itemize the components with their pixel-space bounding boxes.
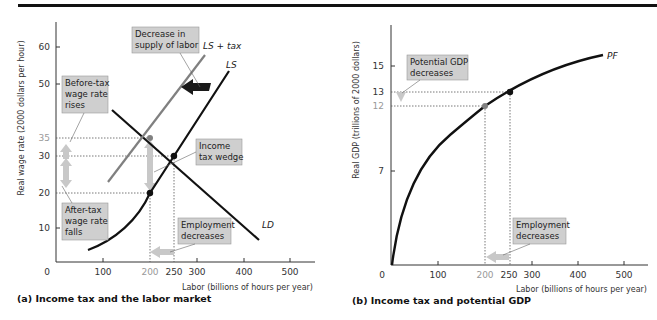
figure: 60 50 35 30 20 10 0 100 200 250 300 400 …: [0, 0, 657, 320]
y-tick-35: 35: [39, 133, 50, 143]
ls-label: LS: [226, 60, 237, 70]
before-tax-point: [147, 135, 153, 141]
svg-text:supply of labor: supply of labor: [135, 40, 199, 50]
x-tick-500: 500: [281, 267, 298, 277]
x-tick-400: 400: [235, 267, 252, 277]
x-axis-label-a: Labor (billions of hours per year): [182, 283, 313, 292]
svg-text:Employment: Employment: [181, 220, 236, 230]
note-decrease-supply: Decrease in supply of labor: [132, 27, 200, 87]
x-tick-200: 200: [141, 267, 158, 277]
svg-text:wage rate: wage rate: [65, 216, 108, 226]
svg-text:decreases: decreases: [516, 231, 560, 241]
caption-a: (a) Income tax and the labor market: [17, 293, 212, 304]
note-employment-decreases-a: Employment decreases: [170, 218, 236, 252]
svg-text:rises: rises: [65, 100, 86, 110]
svg-text:Before-tax: Before-tax: [65, 78, 109, 88]
x-axis-label-b: Labor (billions of hours per year): [516, 285, 647, 294]
x-tick-200-b: 200: [476, 270, 493, 280]
svg-text:Employment: Employment: [516, 220, 571, 230]
note-potential-gdp-decreases: Potential GDP decreases: [402, 55, 468, 93]
note-after-tax-falls: After-tax wage rate falls: [62, 186, 108, 240]
y-tick-30: 30: [39, 151, 51, 161]
svg-text:Decrease in: Decrease in: [135, 29, 185, 39]
x-tick-250-b: 250: [500, 270, 517, 280]
svg-text:wage rate: wage rate: [65, 89, 108, 99]
equilibrium-point: [171, 153, 177, 159]
y-tick-20: 20: [39, 188, 51, 198]
after-tax-double-arrow-icon: [60, 158, 72, 188]
svg-text:Income: Income: [199, 141, 230, 151]
y-tick-12: 12: [373, 101, 384, 111]
pf-label: PF: [607, 51, 618, 61]
after-tax-point: [147, 190, 153, 196]
caption-b: (b) Income tax and potential GDP: [352, 295, 531, 306]
x-tick-400-b: 400: [569, 270, 586, 280]
y-tick-60: 60: [39, 42, 51, 52]
y-tick-13: 13: [373, 87, 384, 97]
y-tick-50: 50: [39, 79, 51, 89]
x-tick-500-b: 500: [615, 270, 632, 280]
y-tick-10: 10: [39, 223, 51, 233]
x-tick-100: 100: [94, 267, 111, 277]
x-tick-100-b: 100: [429, 270, 446, 280]
svg-text:decreases: decreases: [181, 231, 225, 241]
panel-b: 15 13 12 7 0 100 200 250 300 400 500 Lab…: [352, 25, 648, 306]
note-before-tax-rises: Before-tax wage rate rises: [62, 76, 109, 142]
y-axis-label-b: Real GDP (trillions of 2000 dollars): [352, 41, 361, 179]
ls-tax-label: LS + tax: [203, 41, 242, 51]
employment-arrow-icon-b: [486, 251, 509, 263]
x-tick-300: 300: [188, 267, 205, 277]
x-tick-300-b: 300: [523, 270, 540, 280]
svg-text:After-tax: After-tax: [65, 205, 102, 215]
panel-a: 60 50 35 30 20 10 0 100 200 250 300 400 …: [17, 22, 315, 304]
y-tick-7: 7: [378, 166, 384, 176]
gdp-point-with-tax: [482, 103, 488, 109]
svg-text:Potential GDP: Potential GDP: [410, 57, 468, 67]
gdp-decrease-arrow-icon: [396, 92, 406, 102]
svg-text:tax wedge: tax wedge: [199, 152, 243, 162]
x-tick-250: 250: [165, 267, 182, 277]
svg-text:falls: falls: [65, 227, 83, 237]
y-axis-label-a: Real wage rate (2000 dollars per hour): [17, 40, 26, 195]
ld-label: LD: [262, 220, 274, 230]
note-employment-decreases-b: Employment decreases: [503, 218, 571, 255]
x-tick-0: 0: [44, 267, 50, 277]
x-tick-0-b: 0: [379, 270, 385, 280]
svg-text:decreases: decreases: [410, 68, 454, 78]
y-tick-15: 15: [373, 61, 384, 71]
before-tax-arrow-icon: [60, 144, 72, 159]
pf-curve: [392, 55, 603, 265]
gdp-point-no-tax: [507, 89, 513, 95]
